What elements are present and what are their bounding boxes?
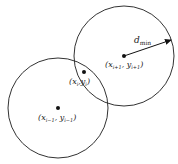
point-prev-label: (xi−1, yi−1) xyxy=(38,113,76,123)
point-current-label: (xi,yi) xyxy=(69,77,90,87)
point-next-label: (xi+1, yi+1) xyxy=(105,60,143,70)
diagram-canvas: dmin (xi+1, yi+1) (xi,yi) (xi−1, yi−1) xyxy=(0,0,178,164)
point-prev-dot xyxy=(56,106,60,110)
dmin-label: dmin xyxy=(134,35,151,46)
point-current-dot xyxy=(82,70,86,74)
point-next-dot xyxy=(122,54,126,58)
